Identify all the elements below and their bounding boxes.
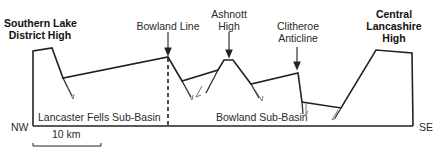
label-line: Bowland Line: [136, 20, 200, 32]
bowland-sub-basin-label: Bowland Sub-Basin: [216, 111, 308, 123]
ashnott-high-label: Ashnott High: [206, 8, 252, 32]
label-line: Clitheroe: [270, 20, 326, 32]
nw-label: NW: [11, 121, 29, 133]
bowland-line-label: Bowland Line: [136, 20, 200, 32]
label-line: High: [364, 32, 424, 44]
clitheroe-anticline-label: Clitheroe Anticline: [270, 20, 326, 44]
label-line: Anticline: [270, 32, 326, 44]
label-line: Lancashire: [364, 20, 424, 32]
label-line: High: [206, 20, 252, 32]
scale-bar: [33, 143, 101, 146]
southern-lake-district-high-label: Southern Lake District High: [4, 17, 76, 41]
central-lancashire-high-label: Central Lancashire High: [364, 8, 424, 44]
label-line: Central: [364, 8, 424, 20]
label-line: Southern Lake: [4, 17, 76, 29]
fault-4: [251, 84, 259, 98]
label-line: Ashnott: [206, 8, 252, 20]
lancaster-fells-sub-basin-label: Lancaster Fells Sub-Basin: [38, 111, 161, 123]
label-line: District High: [4, 29, 76, 41]
scale-bar-label: 10 km: [52, 128, 81, 140]
se-label: SE: [419, 121, 433, 133]
